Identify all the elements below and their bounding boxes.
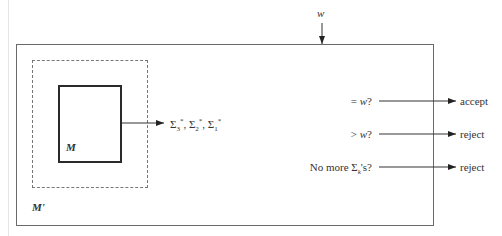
arrows-layer xyxy=(0,0,502,236)
sigma-output-list: Σ3*, Σ2*, Σ1* xyxy=(170,118,221,130)
sigma-term-1: Σ1* xyxy=(208,118,221,130)
test-condition-greater: > w? xyxy=(351,128,372,140)
sigma-term-3: Σ3* xyxy=(170,118,183,130)
result-reject-greater: reject xyxy=(460,128,484,140)
test-condition-exhausted: No more Σk's? xyxy=(310,161,372,173)
result-reject-exhausted: reject xyxy=(460,161,484,173)
sigma-term-2: Σ2* xyxy=(189,118,202,130)
inner-machine-label: M xyxy=(66,141,76,153)
result-accept: accept xyxy=(460,95,488,107)
outer-machine-label: M' xyxy=(32,201,45,213)
test-condition-equal: = w? xyxy=(351,95,372,107)
input-label: w xyxy=(317,7,324,19)
